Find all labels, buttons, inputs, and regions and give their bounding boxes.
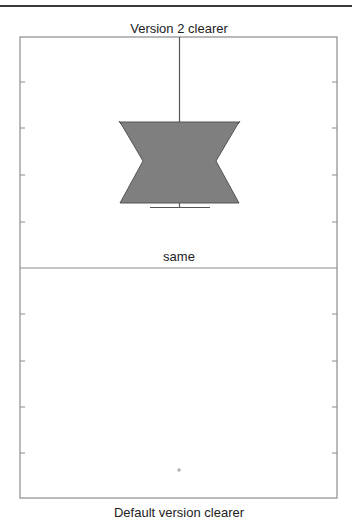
notched-box [120, 122, 239, 203]
left-ticks-lower [20, 314, 25, 453]
outlier-marker [177, 468, 181, 472]
right-ticks-lower [332, 314, 337, 453]
middle-label: same [20, 249, 338, 264]
left-ticks-upper [20, 82, 25, 222]
bottom-label: Default version clearer [20, 505, 338, 520]
right-ticks-upper [332, 82, 337, 222]
box-plot [0, 0, 355, 529]
